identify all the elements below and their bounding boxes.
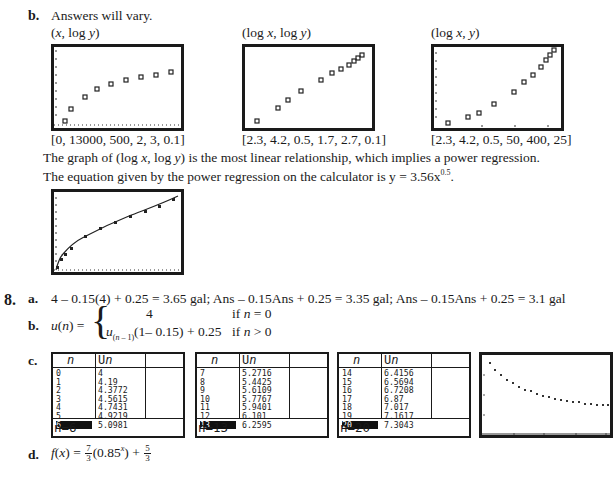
case1-value: 4 (146, 306, 153, 322)
part-c-label: c. (28, 353, 37, 369)
case1-condition: if n = 0 (232, 306, 272, 322)
graph2-title: (log x, log y) (242, 25, 311, 41)
graph-logx-logy (242, 44, 375, 131)
part-a-text: 4 – 0.15(4) + 0.25 = 3.65 gal; Ans – 0.1… (51, 291, 565, 307)
table-footer: n=6 (53, 418, 183, 436)
graph1-title: (x, log y) (51, 25, 99, 41)
equation-text: The equation given by the power regressi… (43, 168, 454, 185)
fraction-7-3: 73 (85, 444, 92, 463)
col-un: Un (98, 354, 112, 367)
recursive-lhs: u(n) = (51, 318, 84, 334)
graph-x-logy (51, 44, 184, 131)
part-b2-label: b. (28, 318, 39, 334)
graph2-window: [2.3, 4.2, 0.5, 1.7, 2.7, 0.1] (242, 132, 386, 148)
table-footer: n=13 (197, 418, 327, 436)
scatter-curve-plot (54, 192, 181, 272)
scatter-plot (434, 47, 561, 128)
part-b-intro: Answers will vary. (51, 8, 152, 24)
explicit-formula: f(x) = 73(0.85x) + 53 (51, 444, 152, 463)
graph3-title: (log x, y) (431, 25, 479, 41)
fraction-5-3: 53 (144, 444, 151, 463)
problem-number: 8. (4, 291, 16, 309)
case2-expression: u(n – 1)(1– 0.15) + 0.25 (106, 324, 222, 342)
case2-condition: if n > 0 (232, 324, 272, 340)
col-un: Un (242, 354, 256, 367)
col-un: Un (384, 354, 398, 367)
sequence-table-3: n Un 1415 1617 1819 20 6.41566.5694 6.72… (337, 352, 471, 438)
part-b-label: b. (28, 8, 39, 24)
conclusion-text: The graph of (log x, log y) is the most … (43, 150, 540, 166)
part-a-label: a. (28, 291, 38, 307)
part-d-label: d. (28, 447, 39, 463)
graph-logx-y (431, 44, 564, 131)
graph3-window: [2.3, 4.2, 0.5, 50, 400, 25] (431, 132, 572, 148)
power-regression-graph (51, 189, 184, 275)
scatter-plot (245, 47, 372, 128)
sequence-table-1: n Un 01 23 45 6 44.19 4.37724.5615 4.743… (51, 352, 185, 438)
graph1-window: [0, 13000, 500, 2, 3, 0.1] (51, 132, 185, 148)
scatter-plot (54, 47, 181, 128)
sequence-table-2: n Un 78 910 1112 13 5.27165.4425 5.61095… (195, 352, 329, 438)
table-footer: n=20 (339, 418, 469, 436)
dot-plot (482, 355, 610, 435)
sequence-plot (479, 352, 613, 438)
